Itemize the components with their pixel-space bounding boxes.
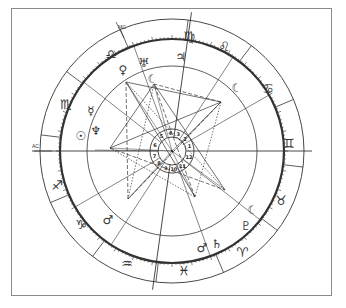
aspect-ray bbox=[126, 82, 172, 151]
degree-tick bbox=[258, 223, 261, 226]
house-number: 9 bbox=[164, 165, 168, 171]
degree-tick bbox=[258, 76, 261, 79]
venus-icon: ♀ bbox=[119, 63, 128, 77]
libra-icon: ♎ bbox=[105, 47, 117, 62]
house-number: 1 bbox=[188, 143, 192, 149]
uranus-icon: ♅ bbox=[139, 56, 150, 70]
aspect-line bbox=[128, 84, 154, 199]
aspect-line bbox=[195, 102, 221, 197]
sign-boundary bbox=[120, 29, 128, 47]
sign-boundary bbox=[283, 165, 303, 167]
house-number: 12 bbox=[186, 154, 193, 160]
sign-boundary bbox=[41, 135, 61, 137]
house-cusp bbox=[153, 165, 171, 290]
degree-tick bbox=[244, 62, 247, 65]
sagittarius-icon: ♐ bbox=[51, 178, 63, 193]
sun-icon: ☉ bbox=[76, 129, 87, 143]
sign-boundary bbox=[275, 99, 293, 107]
moon-node-icon: ☾ bbox=[148, 72, 159, 86]
pluto-icon: ♇ bbox=[241, 219, 252, 233]
degree-tick bbox=[244, 237, 247, 240]
center-point bbox=[171, 150, 173, 152]
degree-tick bbox=[97, 62, 100, 65]
cancer-icon: ♋ bbox=[262, 81, 274, 96]
saturn-icon: ♄ bbox=[212, 237, 223, 251]
aspect-ray bbox=[172, 102, 221, 151]
taurus-icon: ♉ bbox=[275, 193, 287, 208]
degree-tick bbox=[97, 237, 100, 240]
sign-boundary bbox=[261, 218, 277, 230]
capricorn-icon: ♑ bbox=[75, 217, 87, 232]
moon-icon: ☾ bbox=[232, 81, 243, 95]
aspect-line bbox=[126, 82, 221, 102]
aspect-line bbox=[154, 84, 195, 197]
ac-label: AC bbox=[32, 143, 39, 149]
aries-icon: ♈ bbox=[236, 245, 248, 260]
mc-label: MC bbox=[118, 24, 126, 30]
aspect-ray bbox=[154, 84, 172, 151]
sign-boundary bbox=[216, 254, 224, 272]
mars-icon: ♂ bbox=[103, 213, 114, 227]
mars-small-icon: ♂ bbox=[197, 241, 208, 255]
house-cusp bbox=[75, 158, 160, 207]
house-cusp bbox=[184, 95, 269, 144]
aspect-ray bbox=[128, 151, 172, 199]
gemini-icon: ♊ bbox=[283, 136, 295, 151]
aspect-line bbox=[126, 82, 225, 190]
aquarius-icon: ♒ bbox=[121, 256, 133, 271]
neptune-icon: ♆ bbox=[91, 124, 102, 138]
degree-tick bbox=[83, 76, 86, 79]
sign-boundary bbox=[50, 195, 68, 203]
sign-boundary bbox=[239, 46, 251, 62]
aspect-line bbox=[110, 84, 154, 148]
leo-icon: ♌ bbox=[218, 39, 230, 54]
house-number: 6 bbox=[153, 142, 157, 148]
sign-boundary bbox=[67, 72, 83, 84]
scorpio-icon: ♏ bbox=[60, 97, 72, 112]
house-number: 3 bbox=[177, 131, 181, 137]
pisces-icon: ♓ bbox=[178, 263, 190, 278]
mercury-icon: ☿ bbox=[87, 104, 94, 118]
virgo-icon: ♍ bbox=[183, 29, 195, 44]
natal-chart-wheel: 123456789101112♍♌♋♊♉♈♓♒♑♐♏♎♀♅☾♃☾☿☉♆☾♇♄♂♂ bbox=[0, 0, 346, 308]
jupiter-icon: ♃ bbox=[176, 50, 187, 64]
moon-dark-icon: ☾ bbox=[248, 203, 259, 217]
house-number: 7 bbox=[153, 153, 157, 159]
house-cusp bbox=[111, 163, 164, 245]
sign-boundary bbox=[93, 240, 105, 256]
